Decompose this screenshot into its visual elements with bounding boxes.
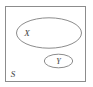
set-x-label: X — [23, 28, 30, 38]
set-diagram-container: X Y S — [0, 0, 93, 87]
universal-set-label: S — [11, 69, 16, 79]
set-diagram-canvas: X Y S — [0, 0, 93, 87]
